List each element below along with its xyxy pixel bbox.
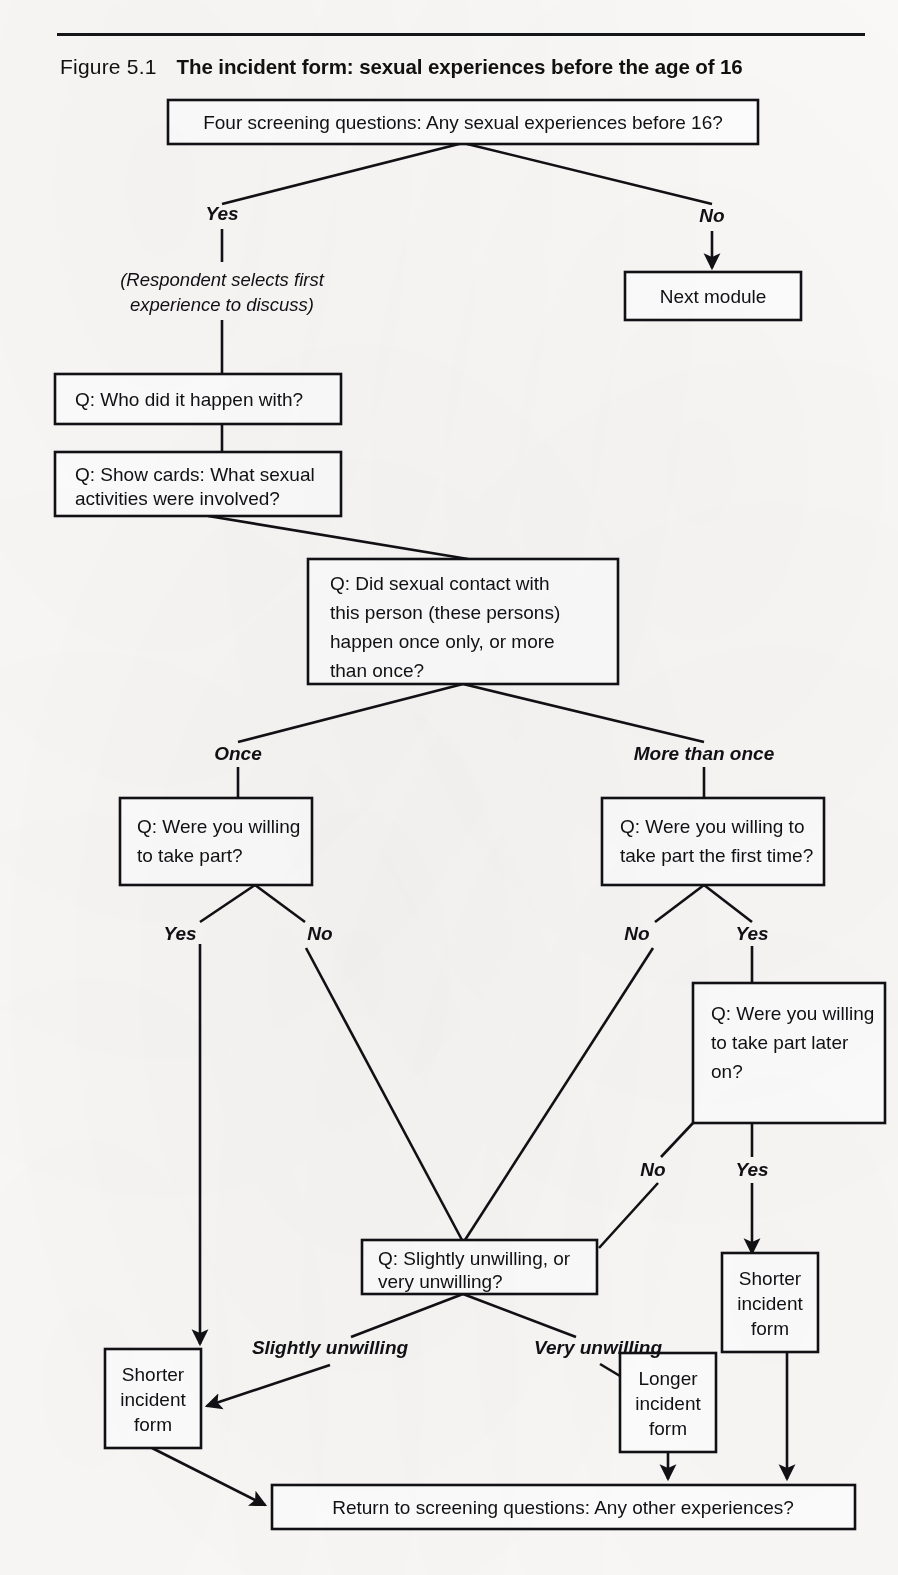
node-unwilling-degree-line1: Q: Slightly unwilling, or [378,1248,571,1269]
node-willing-first-time-line1: Q: Were you willing to [620,816,804,837]
edge-label-once: Once [214,743,262,764]
node-once-or-more-line2: this person (these persons) [330,602,560,623]
edge-shorterleft-to-return [152,1448,265,1505]
edge-oncemore-more [463,684,704,742]
edge-label-slightly-unwilling: Slightly unwilling [252,1337,409,1358]
respondent-note-line1: (Respondent selects first [120,269,324,290]
node-show-cards-line1: Q: Show cards: What sexual [75,464,315,485]
edge-screening-no [463,143,712,204]
edge-willingfirst-no-long [465,948,653,1240]
node-show-cards-line2: activities were involved? [75,488,280,509]
node-shorter-left-line1: Shorter [122,1364,185,1385]
node-unwilling-degree-line2: very unwilling? [378,1271,503,1292]
node-return-to-screening-label: Return to screening questions: Any other… [332,1497,794,1518]
node-longer-line3: form [649,1418,687,1439]
node-once-or-more-line1: Q: Did sexual contact with [330,573,550,594]
node-next-module[interactable]: Next module [625,272,801,320]
edge-slightly-to-shorter [207,1365,330,1406]
edge-oncemore-once [238,684,463,742]
edge-willinglater-no [661,1123,693,1157]
node-shorter-right-line3: form [751,1318,789,1339]
node-shorter-right-line1: Shorter [739,1268,802,1289]
edge-label-no-later: No [640,1159,665,1180]
node-shorter-left-line2: incident [120,1389,186,1410]
edge-willingonce-no-long [306,948,462,1240]
node-once-or-more[interactable]: Q: Did sexual contact with this person (… [308,559,618,684]
node-once-or-more-line3: happen once only, or more [330,631,555,652]
edge-showcards-to-oncemore [208,516,468,559]
edge-unwilling-slightly [351,1294,463,1337]
node-once-or-more-line4: than once? [330,660,424,681]
edge-screening-yes [222,143,463,204]
edge-label-yes-left: Yes [163,923,196,944]
node-show-cards[interactable]: Q: Show cards: What sexual activities we… [55,452,341,516]
node-shorter-right-line2: incident [737,1293,803,1314]
node-shorter-incident-form-left[interactable]: Shorter incident form [105,1349,201,1448]
edge-willingonce-no [255,885,305,922]
edge-label-yes-top: Yes [205,203,238,224]
edge-willingfirst-no [655,885,704,922]
edge-label-no-top: No [699,205,724,226]
node-willing-later-on-line2: to take part later [711,1032,849,1053]
node-willing-later-on-line3: on? [711,1061,743,1082]
node-unwilling-degree[interactable]: Q: Slightly unwilling, or very unwilling… [362,1240,597,1294]
node-willing-first-time[interactable]: Q: Were you willing to take part the fir… [602,798,824,885]
node-willing-later-on-line1: Q: Were you willing [711,1003,874,1024]
node-willing-first-time-line2: take part the first time? [620,845,813,866]
edge-label-no-right: No [624,923,649,944]
node-willing-take-part-line1: Q: Were you willing [137,816,300,837]
node-who-did-it-label: Q: Who did it happen with? [75,389,303,410]
node-willing-later-on[interactable]: Q: Were you willing to take part later o… [693,983,885,1123]
edge-willingonce-yes [200,885,255,922]
node-longer-incident-form[interactable]: Longer incident form [620,1353,716,1452]
edge-label-no-left: No [307,923,332,944]
node-screening-questions-label: Four screening questions: Any sexual exp… [203,112,723,133]
respondent-note-line2: experience to discuss) [130,294,314,315]
node-willing-take-part[interactable]: Q: Were you willing to take part? [120,798,312,885]
edge-willinglater-no-long [599,1183,658,1248]
node-screening-questions[interactable]: Four screening questions: Any sexual exp… [168,100,758,144]
edge-willingfirst-yes [704,885,752,922]
node-shorter-incident-form-right[interactable]: Shorter incident form [722,1253,818,1352]
node-next-module-label: Next module [660,286,767,307]
node-who-did-it[interactable]: Q: Who did it happen with? [55,374,341,424]
node-longer-line1: Longer [638,1368,698,1389]
node-return-to-screening[interactable]: Return to screening questions: Any other… [272,1485,855,1529]
node-shorter-left-line3: form [134,1414,172,1435]
edge-label-yes-later: Yes [735,1159,768,1180]
flowchart-canvas: Four screening questions: Any sexual exp… [0,0,898,1575]
edge-label-more-than-once: More than once [634,743,775,764]
edge-label-very-unwilling: Very unwilling [534,1337,662,1358]
node-longer-line2: incident [635,1393,701,1414]
edge-unwilling-very [463,1294,576,1337]
edge-label-yes-right: Yes [735,923,768,944]
node-willing-take-part-line2: to take part? [137,845,243,866]
